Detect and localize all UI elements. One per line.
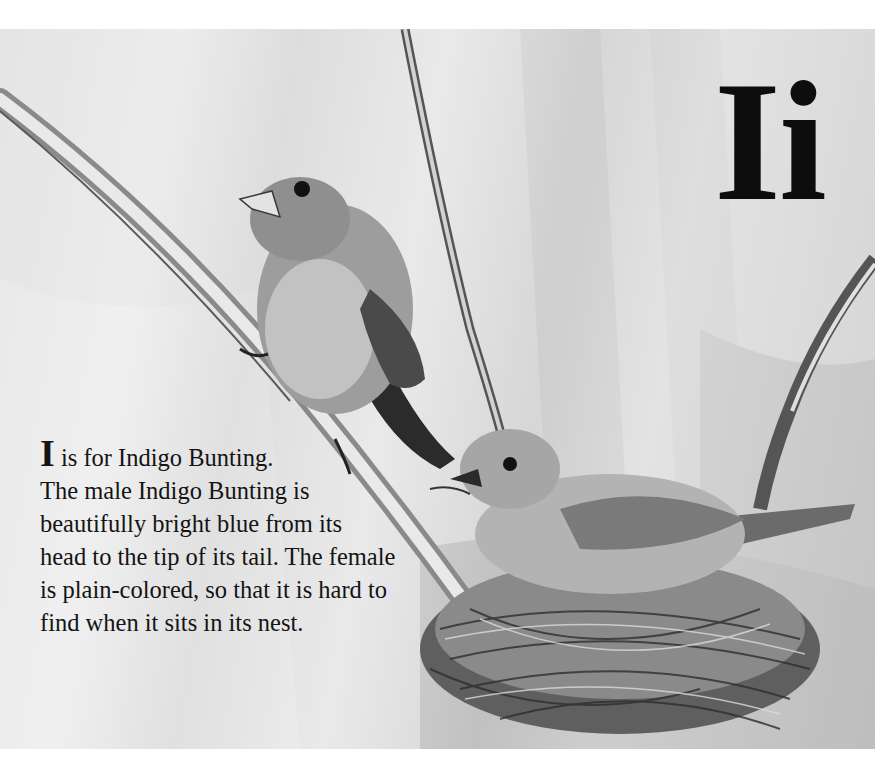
caption-line-5: is plain-colored, so that it is hard to	[40, 573, 460, 606]
caption-initial: I	[40, 432, 55, 474]
caption-line-1: I is for Indigo Bunting.	[40, 438, 460, 474]
caption-line-6: find when it sits in its nest.	[40, 606, 460, 639]
caption-text: I is for Indigo Bunting. The male Indigo…	[40, 438, 460, 639]
caption-line-4: head to the tip of its tail. The female	[40, 540, 460, 573]
caption-line-3: beautifully bright blue from its	[40, 507, 460, 540]
letter-heading: Ii	[714, 55, 825, 227]
caption-first-line: is for Indigo Bunting.	[55, 444, 273, 471]
caption-line-2: The male Indigo Bunting is	[40, 474, 460, 507]
illustrated-page: Ii I is for Indigo Bunting. The male Ind…	[0, 29, 875, 749]
